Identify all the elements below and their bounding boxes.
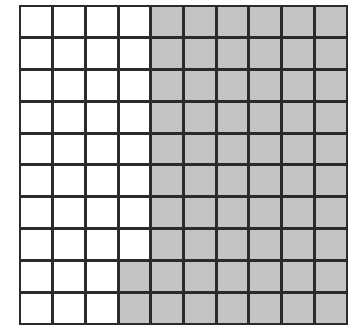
grid-cell-unshaded — [53, 101, 86, 133]
grid-cell-unshaded — [53, 260, 86, 292]
grid-cell-shaded — [183, 6, 216, 38]
grid-row — [20, 133, 347, 165]
grid-cell-shaded — [151, 260, 184, 292]
grid-cell-unshaded — [118, 38, 151, 70]
grid-cell-unshaded — [118, 70, 151, 102]
grid-cell-shaded — [183, 165, 216, 197]
grid-cell-unshaded — [85, 260, 118, 292]
grid-cell-unshaded — [53, 133, 86, 165]
grid-cell-unshaded — [85, 165, 118, 197]
grid-cell-shaded — [314, 165, 347, 197]
grid-cell-shaded — [314, 38, 347, 70]
grid-cell-shaded — [183, 38, 216, 70]
grid-cell-shaded — [183, 197, 216, 229]
grid-cell-shaded — [282, 133, 315, 165]
grid-cell-shaded — [216, 101, 249, 133]
grid-cell-shaded — [216, 70, 249, 102]
grid-cell-shaded — [282, 292, 315, 324]
grid-cell-shaded — [282, 165, 315, 197]
grid-cell-shaded — [314, 70, 347, 102]
grid-cell-unshaded — [85, 38, 118, 70]
grid-cell-unshaded — [53, 197, 86, 229]
grid-cell-shaded — [183, 101, 216, 133]
grid-cell-shaded — [282, 197, 315, 229]
grid-body — [20, 6, 347, 324]
grid-table — [19, 5, 348, 325]
grid-row — [20, 6, 347, 38]
grid-cell-unshaded — [85, 133, 118, 165]
grid-cell-shaded — [118, 260, 151, 292]
grid-cell-shaded — [314, 101, 347, 133]
grid-cell-shaded — [249, 229, 282, 261]
grid-cell-unshaded — [118, 133, 151, 165]
grid-cell-shaded — [118, 292, 151, 324]
grid-cell-shaded — [216, 133, 249, 165]
grid-cell-shaded — [151, 38, 184, 70]
grid-row — [20, 260, 347, 292]
grid-cell-unshaded — [118, 6, 151, 38]
grid-cell-shaded — [151, 70, 184, 102]
grid-cell-shaded — [151, 6, 184, 38]
grid-cell-shaded — [249, 70, 282, 102]
grid-cell-unshaded — [85, 101, 118, 133]
grid-cell-unshaded — [20, 165, 53, 197]
grid-row — [20, 38, 347, 70]
grid-cell-unshaded — [20, 6, 53, 38]
grid-cell-unshaded — [53, 229, 86, 261]
grid-cell-shaded — [249, 292, 282, 324]
grid-cell-unshaded — [20, 101, 53, 133]
grid-cell-shaded — [282, 70, 315, 102]
grid-cell-shaded — [249, 101, 282, 133]
grid-cell-unshaded — [20, 70, 53, 102]
grid-cell-shaded — [249, 133, 282, 165]
grid-cell-unshaded — [20, 229, 53, 261]
grid-cell-shaded — [216, 165, 249, 197]
grid-cell-shaded — [216, 38, 249, 70]
grid-cell-unshaded — [85, 197, 118, 229]
grid-cell-shaded — [151, 101, 184, 133]
grid-cell-shaded — [151, 165, 184, 197]
grid-cell-shaded — [151, 229, 184, 261]
grid-row — [20, 229, 347, 261]
grid-cell-shaded — [282, 260, 315, 292]
grid-cell-unshaded — [85, 6, 118, 38]
grid-cell-shaded — [249, 165, 282, 197]
grid-cell-shaded — [314, 292, 347, 324]
grid-cell-unshaded — [85, 229, 118, 261]
grid-cell-shaded — [314, 133, 347, 165]
grid-cell-shaded — [216, 292, 249, 324]
grid-cell-shaded — [183, 229, 216, 261]
grid-row — [20, 197, 347, 229]
shaded-grid-figure — [19, 5, 348, 325]
grid-cell-shaded — [151, 197, 184, 229]
grid-cell-shaded — [151, 133, 184, 165]
grid-cell-shaded — [216, 260, 249, 292]
grid-cell-shaded — [183, 260, 216, 292]
grid-cell-shaded — [282, 229, 315, 261]
grid-cell-shaded — [249, 6, 282, 38]
grid-cell-shaded — [183, 133, 216, 165]
grid-cell-shaded — [151, 292, 184, 324]
grid-cell-unshaded — [20, 197, 53, 229]
grid-cell-unshaded — [53, 165, 86, 197]
grid-cell-unshaded — [118, 229, 151, 261]
grid-cell-unshaded — [20, 133, 53, 165]
grid-cell-shaded — [249, 38, 282, 70]
grid-cell-unshaded — [20, 292, 53, 324]
grid-cell-unshaded — [53, 70, 86, 102]
grid-cell-shaded — [314, 229, 347, 261]
grid-cell-shaded — [216, 229, 249, 261]
grid-cell-unshaded — [53, 38, 86, 70]
grid-cell-shaded — [183, 70, 216, 102]
grid-cell-shaded — [282, 101, 315, 133]
grid-cell-shaded — [282, 38, 315, 70]
grid-cell-shaded — [249, 260, 282, 292]
grid-cell-shaded — [314, 197, 347, 229]
grid-row — [20, 165, 347, 197]
grid-cell-shaded — [216, 197, 249, 229]
grid-cell-unshaded — [85, 70, 118, 102]
grid-cell-shaded — [183, 292, 216, 324]
grid-cell-unshaded — [20, 38, 53, 70]
grid-cell-unshaded — [20, 260, 53, 292]
grid-cell-unshaded — [118, 165, 151, 197]
